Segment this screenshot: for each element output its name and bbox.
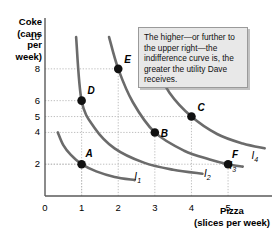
point-label-b: B — [161, 128, 168, 139]
x-tick-label: 2 — [110, 202, 126, 213]
curve-label-subscript: 2 — [207, 174, 211, 181]
data-point-e — [114, 65, 123, 74]
data-point-d — [77, 96, 86, 105]
x-tick-label: 5 — [220, 202, 236, 213]
x-tick-label: 1 — [74, 202, 90, 213]
x-tick-label: 0 — [37, 202, 53, 213]
point-label-c: C — [197, 102, 204, 113]
y-axis-title-line4: week) — [16, 51, 42, 62]
data-point-a — [77, 160, 86, 169]
curve-label-subscript: 1 — [137, 177, 141, 184]
curve-label-i3: I3 — [230, 160, 237, 173]
curve-label-subscript: 3 — [232, 166, 236, 173]
x-tick-label: 3 — [147, 202, 163, 213]
x-tick-label: 4 — [183, 202, 199, 213]
y-tick-label: 4 — [20, 126, 40, 137]
curve-label-i1: I1 — [134, 171, 141, 184]
indifference-curve-figure: Coke(cansperweek) Pizza(slices per week)… — [0, 0, 280, 242]
curve-label-subscript: 4 — [254, 156, 258, 163]
y-tick-label: 8 — [20, 63, 40, 74]
curve-label-i4: I4 — [252, 150, 259, 163]
point-label-f: F — [232, 149, 238, 160]
indifference-curve-i1 — [58, 132, 135, 180]
data-point-b — [151, 128, 160, 137]
y-axis-title-line1: Coke — [19, 16, 42, 27]
data-point-c — [187, 112, 196, 121]
point-label-d: D — [88, 85, 95, 96]
y-tick-label: 5 — [20, 111, 40, 122]
point-label-a: A — [86, 148, 93, 159]
point-label-e: E — [124, 54, 131, 65]
curve-label-i2: I2 — [204, 168, 211, 181]
x-axis-title-line2: (slices per week) — [194, 217, 270, 228]
callout-box: The higher—or further to the upper right… — [138, 27, 248, 88]
y-tick-label: 2 — [20, 158, 40, 169]
y-tick-label: 6 — [20, 95, 40, 106]
y-tick-label: 10 — [20, 31, 40, 42]
callout-text: The higher—or further to the upper right… — [144, 32, 246, 85]
